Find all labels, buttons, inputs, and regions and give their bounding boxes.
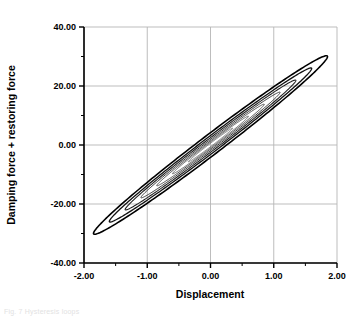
hysteresis-chart: -2.00-1.000.001.002.00-40.00-20.000.0020… — [0, 0, 357, 316]
x-tick-label: 2.00 — [328, 271, 346, 281]
y-tick-label: 0.00 — [58, 140, 76, 150]
x-tick-label: -1.00 — [137, 271, 158, 281]
x-tick-label: -2.00 — [74, 271, 95, 281]
x-tick-label: 1.00 — [265, 271, 283, 281]
y-tick-label: -20.00 — [50, 199, 76, 209]
figure-caption-fragment: Fig. 7 Hysteresis loops — [4, 308, 204, 316]
y-tick-label: -40.00 — [50, 258, 76, 268]
y-tick-label: 40.00 — [53, 22, 76, 32]
y-axis-title: Damping force + restoring force — [5, 65, 17, 225]
y-tick-label: 20.00 — [53, 81, 76, 91]
x-tick-label: 0.00 — [202, 271, 220, 281]
figure-container: -2.00-1.000.001.002.00-40.00-20.000.0020… — [0, 0, 357, 316]
x-axis-title: Displacement — [176, 288, 245, 300]
